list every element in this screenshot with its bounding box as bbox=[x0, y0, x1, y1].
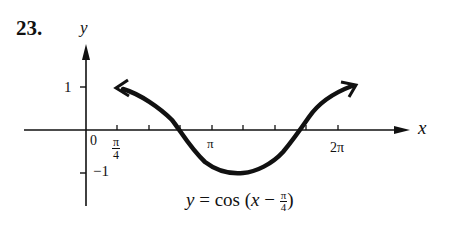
x-tick-label-pi-over-4: π 4 bbox=[112, 136, 120, 161]
y-tick-label-1: 1 bbox=[64, 79, 72, 96]
x-tick-label-2pi: 2π bbox=[330, 140, 344, 156]
origin-label: 0 bbox=[90, 133, 97, 149]
y-tick-label-neg1: −1 bbox=[93, 163, 109, 180]
y-axis-arrow-icon bbox=[82, 44, 90, 60]
x-tick-label-pi: π bbox=[207, 136, 214, 152]
x-axis-arrow-icon bbox=[394, 126, 410, 134]
equation-label: y = cos (x − π 4 ) bbox=[186, 189, 294, 213]
